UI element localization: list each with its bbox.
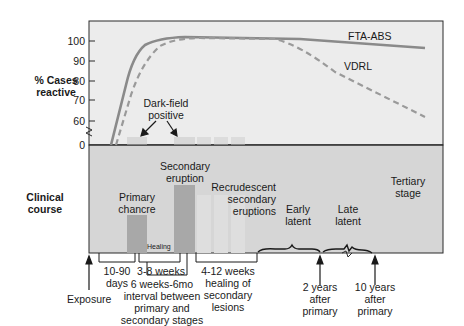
late-latent-line2: latent bbox=[328, 215, 368, 227]
tick-100: 100 bbox=[55, 35, 85, 47]
exposure-label: Exposure bbox=[67, 293, 111, 305]
primary-line1: Primary bbox=[112, 191, 162, 203]
interval-line4: secondary stages bbox=[120, 314, 204, 326]
tick-90: 90 bbox=[55, 55, 85, 67]
dark-field-line2: positive bbox=[136, 109, 196, 121]
tick-80: 80 bbox=[55, 75, 85, 87]
clinical-course-line2: course bbox=[20, 203, 70, 215]
ten-years-label: 10 years after primary bbox=[350, 281, 400, 317]
early-latent-line2: latent bbox=[280, 215, 316, 227]
two-years-line3: primary bbox=[296, 305, 344, 317]
primary-line2: chancre bbox=[112, 203, 162, 215]
interval-line2: interval between bbox=[120, 290, 204, 302]
fta-abs-label: FTA-ABS bbox=[348, 30, 392, 42]
recrudescent-line1: Recrudescent bbox=[200, 181, 276, 193]
dark-field-segment bbox=[174, 137, 195, 145]
ten-years-line2: after bbox=[350, 293, 400, 305]
ten-years-line1: 10 years bbox=[350, 281, 400, 293]
interval-line3: primary and bbox=[120, 302, 204, 314]
healing-label: Healing bbox=[147, 243, 171, 251]
clinical-course-line1: Clinical bbox=[20, 191, 70, 203]
healing-line1: 4-12 weeks bbox=[198, 265, 258, 277]
two-years-label: 2 years after primary bbox=[296, 281, 344, 317]
dark-field-segment bbox=[214, 137, 228, 145]
two-years-line1: 2 years bbox=[296, 281, 344, 293]
dark-field-segment bbox=[231, 137, 245, 145]
tertiary-line1: Tertiary bbox=[383, 175, 433, 187]
late-latent-label: Late latent bbox=[328, 203, 368, 227]
early-latent-label: Early latent bbox=[280, 203, 316, 227]
healing-line2: healing of bbox=[198, 277, 258, 289]
dark-field-label: Dark-field positive bbox=[136, 97, 196, 121]
primary-chancre-bar bbox=[127, 215, 147, 253]
dark-field-segment bbox=[127, 137, 147, 145]
tick-0: 0 bbox=[55, 139, 85, 151]
healing-secondary-label: 4-12 weeks healing of secondary lesions bbox=[198, 265, 258, 313]
secondary-eruption-bar bbox=[174, 185, 195, 253]
tertiary-line2: stage bbox=[383, 187, 433, 199]
ten-years-line3: primary bbox=[350, 305, 400, 317]
clinical-course-label: Clinical course bbox=[20, 191, 70, 215]
two-years-line2: after bbox=[296, 293, 344, 305]
vdrl-label: VDRL bbox=[344, 60, 372, 72]
interval-line1: 6 weeks-6mo bbox=[120, 278, 204, 290]
dark-field-line1: Dark-field bbox=[136, 97, 196, 109]
recrudescent-line2: secondary bbox=[200, 193, 276, 205]
primary-chancre-label: Primary chancre bbox=[112, 191, 162, 215]
weeks-3-8-label: 3-8 weeks bbox=[134, 265, 188, 277]
secondary-line1: Secondary bbox=[155, 160, 215, 172]
tick-60: 60 bbox=[55, 115, 85, 127]
healing-line3: secondary bbox=[198, 289, 258, 301]
recrudescent-line3: eruptions bbox=[200, 205, 276, 217]
late-latent-line1: Late bbox=[328, 203, 368, 215]
early-latent-line1: Early bbox=[280, 203, 316, 215]
recrudescent-label: Recrudescent secondary eruptions bbox=[200, 181, 276, 217]
days-line1: 10-90 bbox=[98, 265, 136, 277]
interval-label: 6 weeks-6mo interval between primary and… bbox=[120, 278, 204, 326]
tick-70: 70 bbox=[55, 94, 85, 106]
healing-line4: lesions bbox=[198, 301, 258, 313]
dark-field-segment bbox=[197, 137, 211, 145]
tertiary-stage-label: Tertiary stage bbox=[383, 175, 433, 199]
